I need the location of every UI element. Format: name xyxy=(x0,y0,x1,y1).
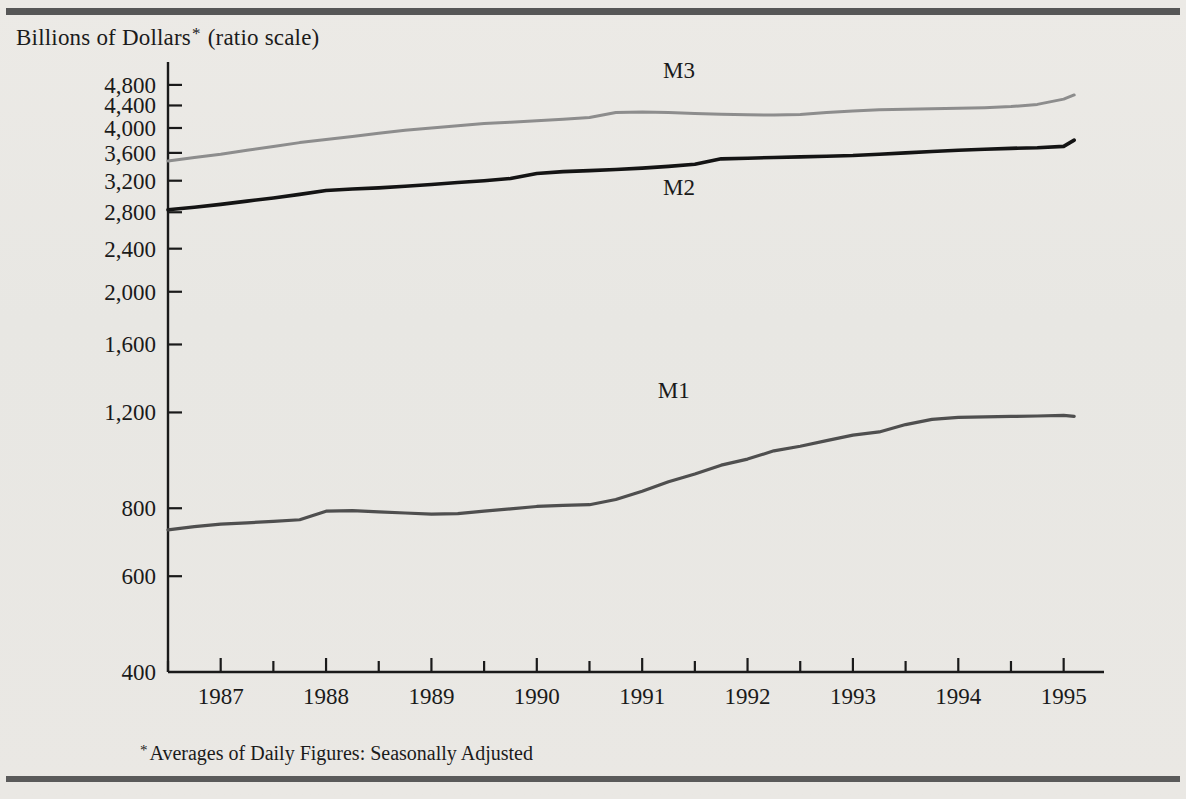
x-tick-label: 1989 xyxy=(408,684,454,709)
series-label-m3: M3 xyxy=(663,58,695,83)
x-tick-label: 1995 xyxy=(1041,684,1087,709)
y-tick-label: 2,000 xyxy=(104,280,156,305)
series-line-m1 xyxy=(168,415,1074,529)
chart-footnote: *Averages of Daily Figures: Seasonally A… xyxy=(140,742,533,765)
series-line-m2 xyxy=(168,140,1074,210)
y-tick-label: 4,400 xyxy=(104,93,156,118)
chart-canvas: 4,8004,4004,0003,6003,2002,8002,4002,000… xyxy=(0,0,1186,799)
monetary-aggregates-line-chart: 4,8004,4004,0003,6003,2002,8002,4002,000… xyxy=(0,0,1186,799)
x-tick-label: 1993 xyxy=(830,684,876,709)
x-tick-label: 1994 xyxy=(935,684,982,709)
series-label-m2: M2 xyxy=(663,175,695,200)
y-tick-label: 2,800 xyxy=(104,200,156,225)
y-tick-label: 2,400 xyxy=(104,237,156,262)
x-tick-label: 1990 xyxy=(514,684,560,709)
x-tick-label: 1988 xyxy=(303,684,349,709)
series-label-m1: M1 xyxy=(658,378,690,403)
y-tick-label: 600 xyxy=(122,564,157,589)
x-tick-label: 1992 xyxy=(725,684,771,709)
y-tick-label: 800 xyxy=(122,496,157,521)
y-tick-label: 1,200 xyxy=(104,400,156,425)
y-tick-label: 1,600 xyxy=(104,332,156,357)
x-tick-label: 1991 xyxy=(619,684,665,709)
data-series-group xyxy=(168,95,1074,530)
series-inline-labels: M3M2M1 xyxy=(658,58,695,403)
y-tick-label: 400 xyxy=(122,660,157,685)
footnote-text: Averages of Daily Figures: Seasonally Ad… xyxy=(150,742,533,764)
y-tick-label: 4,000 xyxy=(104,116,156,141)
y-axis-tick-labels: 4,8004,4004,0003,6003,2002,8002,4002,000… xyxy=(104,73,156,685)
x-axis-ticks xyxy=(168,658,1064,672)
x-tick-label: 1987 xyxy=(198,684,244,709)
y-tick-label: 3,600 xyxy=(104,141,156,166)
footnote-asterisk: * xyxy=(140,742,148,758)
y-tick-label: 3,200 xyxy=(104,169,156,194)
x-axis-tick-labels: 198719881989199019911992199319941995 xyxy=(198,684,1087,709)
